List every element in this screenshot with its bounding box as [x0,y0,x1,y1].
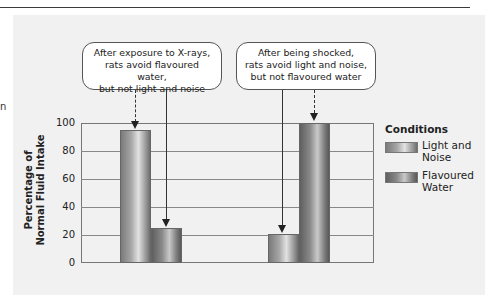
legend-label-line: Water [422,181,482,193]
legend-label-line: Light and [422,139,482,151]
bar-xray-flavoured-water [151,228,182,263]
callout-line: rats avoid flavoured water, [89,59,215,83]
y-tick: 100 [45,117,75,128]
y-tick: 20 [45,229,75,240]
callout-line: rats avoid light and noise, [243,59,369,71]
dashed-connector [135,90,136,122]
legend-title: Conditions [385,123,448,135]
arrow-down-icon [131,121,139,129]
arrow-down-icon [162,219,170,227]
callout-xray: After exposure to X-rays, rats avoid fla… [82,42,222,90]
solid-connector [282,90,283,225]
legend-swatch-flavoured-water [385,172,418,183]
y-axis-label: Percentage of Normal Fluid Intake [23,134,47,245]
legend-label-light-noise: Light and Noise [422,139,482,163]
legend-label-flavoured-water: Flavoured Water [422,169,482,193]
dashed-connector [314,90,315,113]
callout-line: After exposure to X-rays, [89,47,215,59]
bar-shock-flavoured-water [299,123,330,263]
stray-text: n [0,101,6,112]
callout-line: but not flavoured water [243,71,369,83]
legend-label-line: Flavoured [422,169,482,181]
bar-xray-light-noise [120,130,151,263]
y-tick: 60 [45,173,75,184]
bar-shock-light-noise [268,234,299,263]
top-rule [0,7,470,8]
y-tick: 80 [45,145,75,156]
callout-shock: After being shocked, rats avoid light an… [236,42,376,90]
arrow-down-icon [278,225,286,233]
solid-connector [166,90,167,219]
y-tick: 40 [45,201,75,212]
y-axis-label-line: Percentage of [23,134,35,245]
legend-label-line: Noise [422,151,482,163]
callout-line: but not light and noise [89,83,215,95]
callout-line: After being shocked, [243,47,369,59]
legend-swatch-light-noise [385,142,418,153]
y-tick: 0 [45,257,75,268]
arrow-down-icon [310,113,318,121]
